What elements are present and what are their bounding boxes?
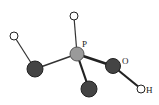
oxygen-atom [106,59,121,74]
phosphorus-atom [70,47,84,61]
oh-hydrogen-atom [137,85,145,93]
molecule-diagram: P O H [0,0,159,105]
oxygen-label: O [122,56,129,66]
left-hydrogen-atom [10,32,18,40]
top-hydrogen-atom [70,12,78,20]
hydroxyl-h-label: H [146,85,153,95]
bottom-dark-atom [81,81,97,97]
phosphorus-label: P [82,39,87,49]
left-dark-atom [27,61,43,77]
